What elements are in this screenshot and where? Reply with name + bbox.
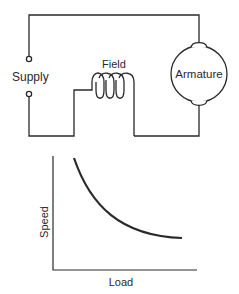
armature-brush-top bbox=[191, 43, 207, 48]
speed-curve bbox=[74, 158, 182, 238]
series-motor-diagram: Supply Field Armature Speed Load bbox=[0, 0, 239, 294]
supply-terminal-top bbox=[26, 56, 31, 61]
bottom-left-wire bbox=[29, 82, 92, 136]
speed-load-graph bbox=[53, 156, 197, 270]
armature-brush-bottom bbox=[191, 101, 207, 106]
y-axis-label: Speed bbox=[38, 206, 50, 238]
supply-label: Supply bbox=[12, 70, 49, 84]
bottom-right-wire bbox=[134, 104, 199, 136]
field-label: Field bbox=[102, 58, 126, 70]
field-coil bbox=[92, 73, 134, 136]
armature-label: Armature bbox=[175, 68, 222, 80]
graph-axes bbox=[53, 156, 197, 270]
x-axis-label: Load bbox=[109, 276, 133, 288]
supply-terminal-bottom bbox=[26, 91, 31, 96]
top-wire bbox=[29, 15, 199, 57]
